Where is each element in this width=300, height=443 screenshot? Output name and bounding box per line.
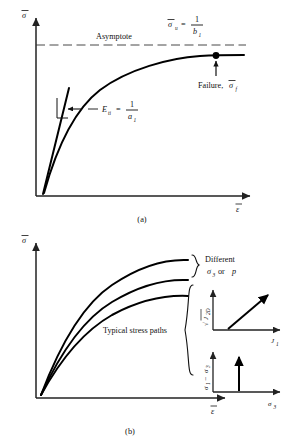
modulus-subscript: ti xyxy=(108,110,111,116)
failure-point-marker xyxy=(213,52,220,59)
modulus-expression: E ti = 1 a 1 xyxy=(101,100,138,123)
sqrt-symbol: √ xyxy=(202,322,210,326)
panel-b-y-axis-label-text: σ xyxy=(22,236,27,245)
inset-bottom-x-label: σ xyxy=(268,400,272,408)
panel-a: σ ε Asymptote σ u = 1 xyxy=(22,11,251,225)
panel-a-x-axis-label-text: ε xyxy=(236,205,240,214)
fraction-denominator-sub: 1 xyxy=(134,117,137,123)
inset-top-x-label: J xyxy=(271,337,275,345)
inset-top-x-label-group: J 1 xyxy=(271,337,279,347)
asymptote-label: Asymptote xyxy=(96,32,132,41)
inset-top-y-label-group: √ J 2D xyxy=(201,308,211,326)
inset-top-path-arrow xyxy=(228,295,268,329)
different-label-line1: Different xyxy=(205,255,236,264)
panel-b: σ ε Different σ 3 or p Typical stress pa… xyxy=(22,236,281,437)
sigma-u-subscript: u xyxy=(175,25,178,31)
fraction-denominator: a xyxy=(128,112,132,121)
different-sigma-sub: 3 xyxy=(212,272,216,278)
equals-sign: = xyxy=(181,20,186,29)
panel-a-y-axis-label: σ xyxy=(22,11,29,21)
failure-subscript: f xyxy=(236,86,239,92)
inset-bottom-y-label-group: σ 1 − σ 3 xyxy=(202,365,211,390)
stress-paths-brace xyxy=(185,285,193,375)
figure-container: σ ε Asymptote σ u = 1 xyxy=(0,0,300,443)
failure-label-group: Failure, σ f xyxy=(198,81,239,92)
panel-a-caption: (a) xyxy=(137,215,147,224)
panel-b-x-axis-label-text: ε xyxy=(211,407,215,416)
fraction-numerator: 1 xyxy=(195,15,199,24)
inset-bottom-x-label-group: σ 3 xyxy=(268,400,277,410)
different-sigma: σ xyxy=(207,267,212,276)
panel-a-y-axis-label-text: σ xyxy=(22,11,27,20)
inset-top-x-subscript: 1 xyxy=(276,341,279,347)
figure-svg: σ ε Asymptote σ u = 1 xyxy=(0,0,300,443)
inset-top-y-subscript: 2D xyxy=(205,308,211,315)
panel-b-caption: (b) xyxy=(125,427,135,436)
panel-a-x-axis-label: ε xyxy=(236,204,243,214)
fraction-denominator-sub: 1 xyxy=(199,32,202,38)
different-or: or xyxy=(218,267,225,276)
panel-b-y-axis-label: σ xyxy=(22,236,29,246)
different-p: p xyxy=(231,267,236,276)
stress-paths-label: Typical stress paths xyxy=(103,326,167,335)
fraction-denominator: b xyxy=(193,27,197,36)
minus-sign: − xyxy=(202,377,210,381)
inset-top-y-label: J xyxy=(202,316,210,320)
sigma-1-subscript: 1 xyxy=(205,382,211,385)
inset-bottom-stress-path: σ 1 − σ 3 σ 3 xyxy=(202,352,280,410)
different-label-group: Different σ 3 or p xyxy=(205,255,236,278)
sigma-3-symbol: σ xyxy=(202,369,210,373)
equals-sign: = xyxy=(116,105,121,114)
failure-sigma: σ xyxy=(229,81,234,90)
failure-label: Failure, xyxy=(198,81,223,90)
modulus-symbol: E xyxy=(101,105,107,114)
asymptote-value-expression: σ u = 1 b 1 xyxy=(168,15,204,38)
inset-bottom-x-subscript: 3 xyxy=(273,404,277,410)
different-brace xyxy=(192,255,199,277)
sigma-symbol: σ xyxy=(168,20,173,29)
inset-top-stress-path: √ J 2D J 1 xyxy=(201,290,280,347)
fraction-numerator: 1 xyxy=(130,100,134,109)
stress-strain-curve xyxy=(44,55,244,193)
sigma-1-symbol: σ xyxy=(202,386,210,390)
initial-tangent-line xyxy=(43,88,69,194)
panel-b-x-axis-label: ε xyxy=(211,406,218,416)
sigma-3-subscript: 3 xyxy=(205,365,211,369)
